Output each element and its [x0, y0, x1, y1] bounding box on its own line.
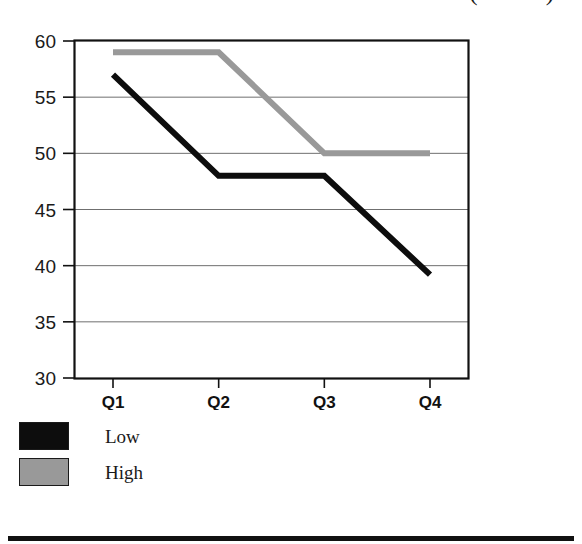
chart-x-axis-labels: Q1Q2Q3Q4: [102, 393, 442, 410]
x-axis-tick-label: Q4: [419, 393, 442, 410]
series-line-high: [113, 52, 430, 153]
chart-plot-area: 60555045403530 Q1Q2Q3Q4: [0, 0, 582, 410]
legend-label-low: Low: [105, 427, 140, 446]
chart-gridlines: [75, 97, 468, 322]
y-axis-tick-label: 40: [35, 256, 56, 277]
x-axis-tick-label: Q1: [102, 393, 125, 410]
chart-y-axis-labels: 60555045403530: [35, 31, 56, 389]
y-axis-tick-label: 45: [35, 200, 56, 221]
legend-item-high: High: [19, 454, 319, 490]
y-axis-tick-label: 30: [35, 368, 56, 389]
legend-swatch-high-icon: [19, 458, 69, 486]
bottom-divider: [8, 536, 574, 541]
y-axis-tick-label: 60: [35, 31, 56, 52]
chart-y-axis-ticks: [63, 41, 75, 378]
y-axis-tick-label: 35: [35, 312, 56, 333]
y-axis-tick-label: 55: [35, 87, 56, 108]
line-chart-svg: 60555045403530 Q1Q2Q3Q4: [0, 0, 582, 410]
x-axis-tick-label: Q2: [207, 393, 230, 410]
legend-label-high: High: [105, 463, 143, 482]
chart-series-group: [113, 52, 430, 274]
y-axis-tick-label: 50: [35, 143, 56, 164]
legend-swatch-low-icon: [19, 422, 69, 450]
legend-item-low: Low: [19, 418, 319, 454]
chart-legend: Low High: [19, 418, 319, 490]
x-axis-tick-label: Q3: [313, 393, 336, 410]
